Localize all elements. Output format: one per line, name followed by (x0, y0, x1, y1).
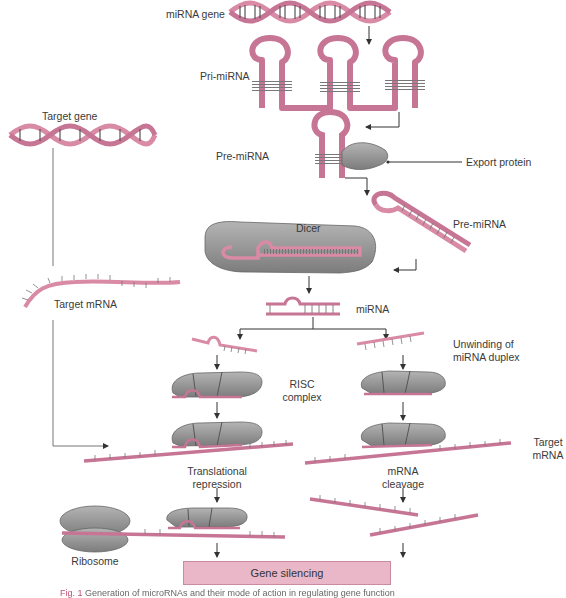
target-gene-helix (10, 126, 155, 144)
label-risc-line1: RISC (282, 378, 321, 391)
label-pre-mirna-nuclear: Pre-miRNA (216, 150, 269, 163)
label-target-gene: Target gene (42, 110, 97, 123)
arrow-pre-to-dicer (394, 259, 416, 270)
label-unwinding-line1: Unwinding of (453, 338, 520, 351)
label-target-mrna-right-line1: Target (533, 436, 564, 449)
label-target-mrna-right-line2: mRNA (533, 449, 564, 462)
label-target-mrna-left: Target mRNA (54, 298, 117, 311)
unwound-strand-left (192, 337, 257, 354)
arrow-mirna-split-right (313, 329, 386, 339)
risc-bound-mrna-left (84, 422, 293, 461)
risc-complex-right (361, 371, 445, 394)
label-unwinding: Unwinding of miRNA duplex (453, 338, 520, 364)
label-mrna-cleavage: mRNA cleavage (382, 465, 424, 491)
ribosome (60, 506, 130, 552)
label-translational-line2: repression (187, 478, 247, 491)
arrow-export (345, 178, 367, 195)
label-cleavage-line2: cleavage (382, 478, 424, 491)
label-export-protein: Export protein (466, 156, 531, 169)
pri-mirna-structure (252, 38, 421, 108)
pri-mirna-rungs (252, 80, 425, 92)
label-mirna: miRNA (356, 303, 389, 316)
label-translational-repression: Translational repression (187, 465, 247, 491)
unwound-strand-right (357, 333, 424, 350)
gene-silencing-box: Gene silencing (183, 561, 391, 585)
mirna-gene-helix (230, 3, 390, 21)
figure-caption: Fig. 1 Generation of microRNAs and their… (60, 588, 560, 598)
arrow-pri-to-pre (366, 112, 399, 127)
arrow-mirna-split (240, 317, 313, 339)
label-mirna-gene: miRNA gene (166, 8, 225, 21)
label-pre-mirna-cytoplasm: Pre-miRNA (453, 218, 506, 231)
risc-complex-left (172, 372, 262, 397)
gene-silencing-label: Gene silencing (251, 567, 324, 579)
risc-bound-mrna-right (305, 423, 511, 463)
label-risc-complex: RISC complex (282, 378, 321, 404)
caption-text: Generation of microRNAs and their mode o… (83, 588, 395, 598)
label-unwinding-line2: miRNA duplex (453, 351, 520, 364)
pre-mirna-nuclear-structure (314, 112, 387, 178)
cleaved-mrna-fragments (310, 495, 478, 535)
label-ribosome: Ribosome (71, 555, 118, 568)
label-cleavage-line1: mRNA (382, 465, 424, 478)
label-risc-line2: complex (282, 391, 321, 404)
label-target-mrna-right: Target mRNA (533, 436, 564, 462)
arrow-mrna-to-complex (53, 320, 108, 446)
mirna-duplex (266, 298, 340, 314)
label-pri-mirna: Pri-miRNA (200, 70, 250, 83)
label-dicer: Dicer (296, 222, 321, 235)
caption-prefix: Fig. 1 (60, 588, 83, 598)
label-translational-line1: Translational (187, 465, 247, 478)
dicer-enzyme (205, 222, 376, 273)
